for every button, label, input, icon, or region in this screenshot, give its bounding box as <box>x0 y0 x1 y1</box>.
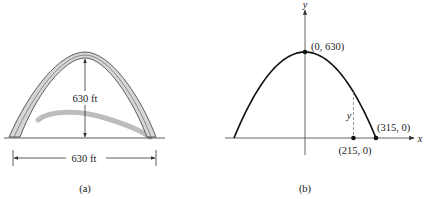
panel-b: x y y (0, 630) (315, 0) (215, 0) (b) <box>225 0 423 195</box>
point-215 <box>351 136 356 141</box>
label-215: (215, 0) <box>338 145 372 157</box>
label-vertex: (0, 630) <box>311 41 345 53</box>
figure: 630 ft 630 ft (a) x y y (0, 630) (315, 0… <box>0 0 426 199</box>
caption-a: (a) <box>79 183 91 195</box>
height-label: 630 ft <box>73 93 98 104</box>
y-axis-label: y <box>302 0 308 10</box>
panel-a: 630 ft 630 ft (a) <box>4 52 165 195</box>
y-height-label: y <box>346 110 352 121</box>
arch-shadow <box>38 112 150 137</box>
width-label: 630 ft <box>72 153 97 164</box>
point-right-intercept <box>374 136 379 141</box>
x-axis-label: x <box>417 133 423 144</box>
caption-b: (b) <box>299 183 312 195</box>
label-right-intercept: (315, 0) <box>377 122 411 134</box>
point-vertex <box>303 50 308 55</box>
